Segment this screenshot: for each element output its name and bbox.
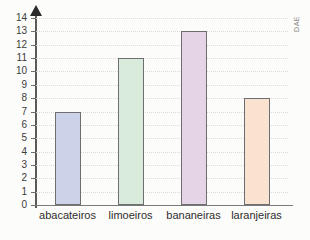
x-axis-line [35,205,293,206]
y-tick-label: 3 [21,160,27,170]
y-tick-label: 1 [21,187,27,197]
gridline [36,85,288,86]
gridline [36,45,288,46]
y-tick-label: 8 [21,93,27,103]
y-tick-label: 9 [21,80,27,90]
bar-limoeiros [118,58,144,205]
x-label-limoeiros: limoeiros [108,209,152,221]
bar-bananeiras [181,31,207,205]
bar-chart: 01234567891011121314 abacateiroslimoeiro… [0,0,310,240]
y-tick-label: 12 [16,40,27,50]
x-label-laranjeiras: laranjeiras [231,209,282,221]
watermark-label: DAE [293,16,300,32]
gridline [36,58,288,59]
y-tick-label: 11 [17,53,27,63]
gridline [36,31,288,32]
plot-area [36,18,288,205]
y-tick-label: 4 [21,147,27,157]
y-tick-label: 6 [21,120,27,130]
gridline [36,71,288,72]
y-tick-label: 7 [21,107,27,117]
y-tick-label: 0 [21,200,27,210]
y-tick-label: 5 [21,133,27,143]
gridline [36,18,288,19]
bar-abacateiros [55,112,81,206]
y-tick-label: 2 [21,173,27,183]
y-tick-label: 14 [16,13,27,23]
x-label-abacateiros: abacateiros [39,209,96,221]
x-label-bananeiras: bananeiras [166,209,220,221]
y-tick-label: 10 [16,66,27,76]
bar-laranjeiras [244,98,270,205]
y-axis-arrow-icon [30,5,42,16]
y-tick-label: 13 [16,26,27,36]
y-axis-tick-labels: 01234567891011121314 [0,0,27,240]
